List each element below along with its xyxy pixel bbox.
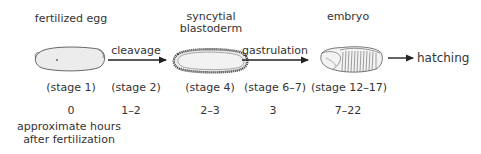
- stage-label: (stage 6–7): [244, 82, 306, 94]
- blastoderm-label: blastoderm: [180, 23, 242, 35]
- embryo-illustration: [321, 47, 383, 72]
- embryo-label: embryo: [327, 11, 369, 23]
- fertilized-egg-illustration: [35, 47, 104, 71]
- hours-value: 3: [270, 105, 277, 117]
- hours-caption-line1: approximate hours: [17, 121, 121, 133]
- stage-label: (stage 12–17): [311, 82, 387, 94]
- syncytial-blastoderm-illustration: [174, 49, 248, 72]
- hatching-label: hatching: [417, 52, 469, 64]
- gastrulation-label: gastrulation: [242, 45, 308, 57]
- hours-caption-line2: after fertilization: [23, 134, 115, 146]
- stage-label: (stage 1): [46, 82, 96, 94]
- hours-value: 0: [68, 105, 75, 117]
- stage-label: (stage 2): [111, 82, 161, 94]
- hours-value: 2–3: [200, 105, 220, 117]
- fertilized-egg-label: fertilized egg: [35, 13, 107, 25]
- cleavage-label: cleavage: [111, 45, 161, 57]
- hours-value: 7–22: [335, 105, 362, 117]
- stage-label: (stage 4): [185, 82, 235, 94]
- hours-value: 1–2: [121, 105, 141, 117]
